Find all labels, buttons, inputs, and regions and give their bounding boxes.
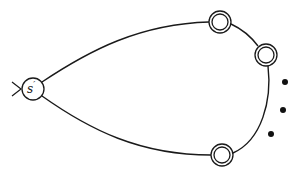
accepting-state-top — [209, 11, 231, 33]
dot-1 — [282, 79, 288, 85]
start-arrow-icon — [12, 82, 21, 96]
ellipsis-dots — [268, 79, 288, 137]
dot-3 — [268, 131, 274, 137]
edge-start-to-bottom — [42, 96, 211, 155]
accepting-state-right — [255, 44, 277, 66]
automaton-diagram: s′ — [0, 0, 302, 178]
edge-right-to-bottom — [233, 66, 269, 153]
dot-2 — [280, 107, 286, 113]
start-state: s′ — [22, 78, 44, 100]
accepting-state-bottom — [211, 144, 233, 166]
edge-start-to-top — [42, 22, 209, 82]
edge-top-to-right — [231, 24, 258, 46]
